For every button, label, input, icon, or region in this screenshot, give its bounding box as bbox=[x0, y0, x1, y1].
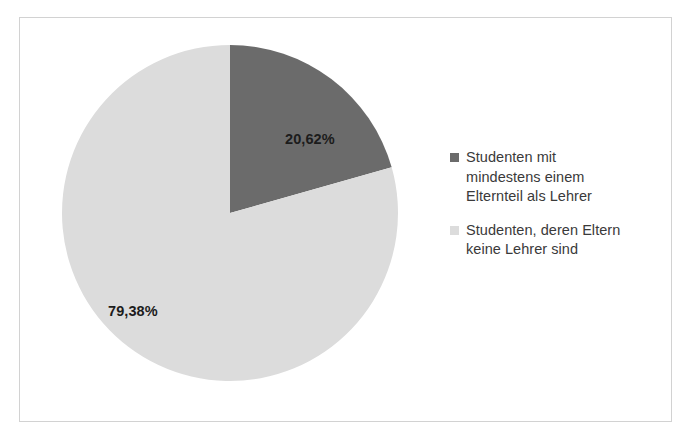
legend-entry-no-teacher-parent[interactable]: Studenten, deren Elternkeine Lehrer sind bbox=[450, 221, 665, 260]
legend-swatch-icon-light bbox=[450, 226, 459, 235]
legend-swatch-icon-dark bbox=[450, 153, 459, 162]
legend-line-1: Studenten mit bbox=[466, 149, 556, 165]
legend-line-2: mindestens einem bbox=[466, 169, 584, 185]
pie-chart-graphic bbox=[60, 43, 400, 383]
legend-label-teacher-parent: Studenten mitmindestens einemElternteil … bbox=[466, 148, 592, 207]
pie-slices bbox=[62, 45, 398, 381]
legend-entry-teacher-parent[interactable]: Studenten mitmindestens einemElternteil … bbox=[450, 148, 665, 207]
pie-slice-value-label-light: 79,38% bbox=[108, 303, 158, 319]
chart-legend: Studenten mitmindestens einemElternteil … bbox=[450, 148, 665, 274]
legend-line-1: Studenten, deren Eltern bbox=[466, 222, 620, 238]
legend-line-2: keine Lehrer sind bbox=[466, 241, 578, 257]
chart-frame: 20,62% 79,38% Studenten mitmindestens ei… bbox=[19, 17, 672, 422]
pie-slice-value-label-dark: 20,62% bbox=[285, 131, 335, 147]
legend-line-3: Elternteil als Lehrer bbox=[466, 188, 592, 204]
pie-chart-plot-area: 20,62% 79,38% Studenten mitmindestens ei… bbox=[20, 18, 673, 423]
legend-label-no-teacher-parent: Studenten, deren Elternkeine Lehrer sind bbox=[466, 221, 620, 260]
